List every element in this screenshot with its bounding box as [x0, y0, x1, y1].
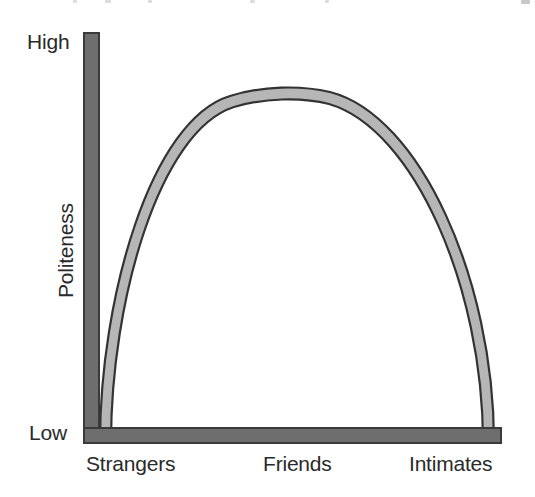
- x-axis-bar: [84, 428, 501, 443]
- y-axis-bar: [84, 33, 99, 443]
- y-axis-high-label: High: [27, 31, 69, 52]
- x-axis-tick-intimates: Intimates: [409, 453, 492, 474]
- politeness-curve: [100, 87, 494, 442]
- x-axis-tick-friends: Friends: [263, 453, 332, 474]
- y-axis-low-label: Low: [29, 422, 67, 443]
- chart-plot-area: [0, 0, 535, 497]
- x-axis-tick-strangers: Strangers: [86, 453, 175, 474]
- politeness-curve-figure: High Low Politeness Strangers Friends In…: [0, 0, 535, 497]
- y-axis-title: Politeness: [55, 203, 76, 298]
